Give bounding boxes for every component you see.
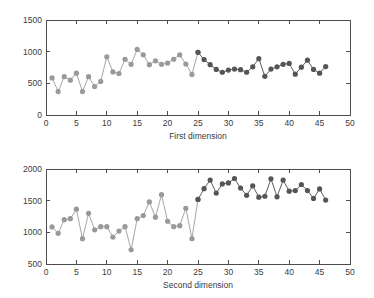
x-tick-label: 45 xyxy=(315,118,325,128)
data-point xyxy=(74,207,79,212)
data-point xyxy=(116,71,121,76)
data-line-segment-1 xyxy=(52,195,198,250)
data-point xyxy=(189,236,194,241)
data-point xyxy=(268,66,273,71)
data-point xyxy=(116,228,121,233)
data-point xyxy=(110,234,115,239)
data-point xyxy=(147,62,152,67)
y-tick-label: 1000 xyxy=(23,47,42,57)
data-point xyxy=(177,52,182,57)
data-point xyxy=(159,192,164,197)
data-point xyxy=(208,177,213,182)
data-point xyxy=(104,54,109,59)
axes-box xyxy=(46,20,350,115)
data-point xyxy=(62,74,67,79)
x-tick-label: 0 xyxy=(44,118,49,128)
data-point xyxy=(274,64,279,69)
data-point xyxy=(159,62,164,67)
data-line-segment-1 xyxy=(52,49,198,91)
x-tick-label: 50 xyxy=(345,118,355,128)
data-point xyxy=(74,71,79,76)
data-point xyxy=(232,176,237,181)
data-point xyxy=(68,78,73,83)
data-point xyxy=(256,195,261,200)
data-point xyxy=(49,75,54,80)
x-tick-label: 20 xyxy=(163,118,173,128)
data-point xyxy=(281,177,286,182)
data-point xyxy=(287,189,292,194)
y-tick-label: 0 xyxy=(37,110,42,120)
x-tick-label: 40 xyxy=(284,118,294,128)
data-point xyxy=(268,176,273,181)
data-point xyxy=(62,217,67,222)
data-point xyxy=(86,74,91,79)
data-point xyxy=(208,62,213,67)
data-point xyxy=(293,72,298,77)
data-point xyxy=(214,67,219,72)
data-point xyxy=(165,60,170,65)
data-point xyxy=(129,62,134,67)
data-point xyxy=(165,219,170,224)
data-point xyxy=(86,211,91,216)
data-point xyxy=(129,247,134,252)
data-point xyxy=(49,224,54,229)
data-point xyxy=(122,224,127,229)
x-tick-label: 35 xyxy=(254,267,264,277)
data-point xyxy=(80,89,85,94)
data-point xyxy=(244,193,249,198)
data-point xyxy=(171,224,176,229)
data-point xyxy=(293,188,298,193)
y-tick-label: 1500 xyxy=(23,15,42,25)
data-point xyxy=(226,67,231,72)
data-point xyxy=(104,224,109,229)
data-point xyxy=(244,70,249,75)
data-point xyxy=(153,215,158,220)
x-axis-label: First dimension xyxy=(169,131,227,141)
data-point xyxy=(183,61,188,66)
data-point xyxy=(68,216,73,221)
x-tick-label: 30 xyxy=(224,118,234,128)
data-point xyxy=(256,56,261,61)
data-point xyxy=(262,74,267,79)
data-point xyxy=(214,190,219,195)
figure-root: 05101520253035404550050010001500First di… xyxy=(0,0,374,298)
x-tick-label: 20 xyxy=(163,267,173,277)
x-tick-label: 10 xyxy=(102,267,112,277)
data-point xyxy=(262,194,267,199)
data-point xyxy=(135,47,140,52)
data-point xyxy=(220,181,225,186)
data-point xyxy=(171,57,176,62)
data-point xyxy=(141,213,146,218)
data-point xyxy=(305,58,310,63)
data-point xyxy=(110,69,115,74)
axes-box xyxy=(46,169,350,264)
data-point xyxy=(250,183,255,188)
data-point xyxy=(98,79,103,84)
data-point xyxy=(56,231,61,236)
data-point xyxy=(323,197,328,202)
x-tick-label: 5 xyxy=(74,267,79,277)
x-tick-label: 0 xyxy=(44,267,49,277)
data-point xyxy=(274,194,279,199)
x-tick-label: 25 xyxy=(193,118,203,128)
data-point xyxy=(122,57,127,62)
chart-panel-second-dimension: 05101520253035404550500100015002000Secon… xyxy=(0,149,374,298)
data-point xyxy=(147,199,152,204)
data-point xyxy=(201,57,206,62)
data-point xyxy=(317,186,322,191)
data-point xyxy=(299,65,304,70)
data-point xyxy=(305,188,310,193)
data-point xyxy=(323,64,328,69)
y-tick-label: 500 xyxy=(28,259,42,269)
data-point xyxy=(250,64,255,69)
x-tick-label: 5 xyxy=(74,118,79,128)
data-point xyxy=(317,71,322,76)
x-tick-label: 35 xyxy=(254,118,264,128)
data-point xyxy=(281,62,286,67)
x-tick-label: 40 xyxy=(284,267,294,277)
chart-svg-second-dimension: 05101520253035404550500100015002000Secon… xyxy=(0,149,374,298)
x-tick-label: 45 xyxy=(315,267,325,277)
data-point xyxy=(232,66,237,71)
data-point xyxy=(56,89,61,94)
y-tick-label: 1000 xyxy=(23,227,42,237)
